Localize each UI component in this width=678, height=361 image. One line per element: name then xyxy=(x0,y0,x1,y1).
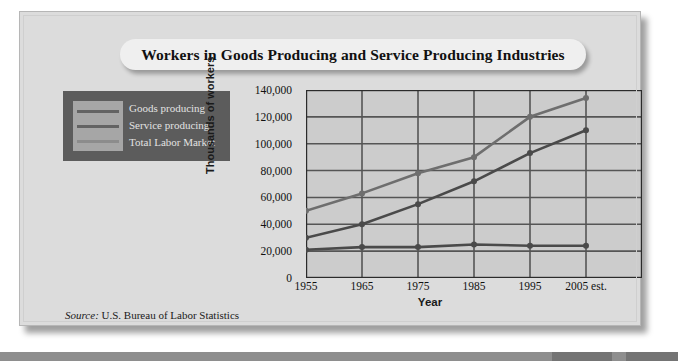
legend-swatch-service-producing xyxy=(77,125,119,128)
legend-label-goods-producing: Goods producing xyxy=(129,102,205,114)
figure-panel: Workers in Goods Producing and Service P… xyxy=(19,11,641,326)
x-axis-tick-labels: 195519651975198519952005 est. xyxy=(210,278,650,298)
y-axis-tick: 40,000 xyxy=(230,218,292,230)
data-point-goods-producing xyxy=(415,244,421,250)
data-point-goods-producing xyxy=(359,244,365,250)
data-point-goods-producing xyxy=(583,243,589,249)
source-note: Source: U.S. Bureau of Labor Statistics xyxy=(65,309,239,321)
source-value: U.S. Bureau of Labor Statistics xyxy=(99,309,239,321)
x-axis-tick: 1975 xyxy=(407,280,430,292)
legend-label-total-labor-market: Total Labor Market xyxy=(129,136,215,148)
legend-swatch-goods-producing xyxy=(77,110,119,113)
chart-area: Thousands of workers 020,00040,00060,000… xyxy=(210,82,650,312)
bottom-edge-strip xyxy=(0,352,678,361)
chart-plot-svg xyxy=(306,90,642,278)
source-label: Source: xyxy=(65,309,99,321)
y-axis-tick: 100,000 xyxy=(230,138,292,150)
legend-swatch-panel xyxy=(73,101,123,151)
data-point-total-labor-market xyxy=(527,114,533,120)
y-axis-tick: 80,000 xyxy=(230,165,292,177)
legend-label-service-producing: Service producing xyxy=(129,119,209,131)
data-point-goods-producing xyxy=(527,243,533,249)
data-point-total-labor-market xyxy=(359,190,365,196)
y-axis-tick: 120,000 xyxy=(230,111,292,123)
data-point-total-labor-market xyxy=(583,95,589,101)
plot-region xyxy=(306,90,642,278)
x-axis-tick: 1965 xyxy=(351,280,374,292)
y-axis-title: Thousands of workers xyxy=(204,57,216,174)
legend-swatch-total-labor-market xyxy=(77,140,119,143)
data-point-goods-producing xyxy=(471,241,477,247)
data-point-total-labor-market xyxy=(471,154,477,160)
y-axis-tick: 20,000 xyxy=(230,245,292,257)
x-axis-tick: 1955 xyxy=(295,280,318,292)
x-axis-title: Year xyxy=(210,296,650,308)
bottom-strip-segment-1 xyxy=(552,352,612,361)
x-axis-tick: 1985 xyxy=(463,280,486,292)
data-point-service-producing xyxy=(583,127,589,133)
figure-screenshot: Workers in Goods Producing and Service P… xyxy=(0,0,678,361)
data-point-service-producing xyxy=(359,221,365,227)
data-point-service-producing xyxy=(527,150,533,156)
y-axis-tick: 140,000 xyxy=(230,84,292,96)
data-point-service-producing xyxy=(415,201,421,207)
x-axis-tick: 2005 est. xyxy=(565,280,607,292)
x-axis-tick: 1995 xyxy=(519,280,542,292)
data-point-service-producing xyxy=(471,178,477,184)
chart-title-banner: Workers in Goods Producing and Service P… xyxy=(120,39,586,70)
y-axis-tick: 60,000 xyxy=(230,191,292,203)
bottom-strip-segment-2 xyxy=(626,352,678,361)
data-point-total-labor-market xyxy=(415,170,421,176)
